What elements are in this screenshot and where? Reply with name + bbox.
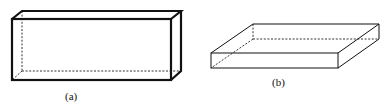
labels-layer: (a) (b)	[0, 0, 391, 107]
label-b: (b)	[272, 76, 285, 89]
label-a: (a)	[65, 90, 78, 103]
